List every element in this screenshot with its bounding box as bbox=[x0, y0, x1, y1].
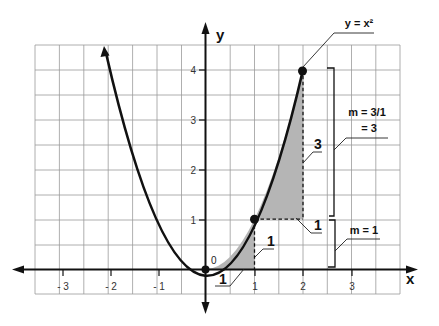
x-tick-label: 3 bbox=[349, 281, 355, 292]
y-tick-label: 2 bbox=[190, 165, 196, 176]
grid bbox=[35, 45, 400, 294]
function-label: y = x² bbox=[345, 17, 374, 29]
run-2-label: 1 bbox=[314, 217, 322, 233]
y-axis-top-arrow-icon bbox=[202, 22, 210, 34]
x-tick-label: 2 bbox=[300, 281, 306, 292]
rise-1-leader bbox=[255, 249, 274, 257]
y-axis-bottom-arrow-icon bbox=[202, 302, 210, 314]
x-tick-label: - 2 bbox=[105, 281, 117, 292]
slope-1-bracket bbox=[328, 220, 335, 267]
rise-2-label: 3 bbox=[314, 136, 322, 152]
y-axis-label: y bbox=[216, 26, 225, 43]
rise-2-leader bbox=[303, 152, 322, 163]
x-tick-label: - 3 bbox=[57, 281, 69, 292]
slope-3-bracket bbox=[327, 68, 334, 216]
x-axis-label: x bbox=[406, 270, 415, 287]
rise-1-label: 1 bbox=[267, 233, 275, 249]
slope-1-label: m = 1 bbox=[350, 224, 378, 236]
point-2-4 bbox=[298, 67, 307, 76]
slope-3-leader bbox=[334, 138, 388, 150]
x-tick-label: - 1 bbox=[153, 281, 165, 292]
x-tick-label: 1 bbox=[252, 281, 258, 292]
run-1-label: 1 bbox=[219, 271, 227, 287]
x-axis-left-arrow-icon bbox=[12, 266, 24, 274]
function-label-leader bbox=[303, 33, 374, 67]
x-axis bbox=[12, 266, 418, 274]
parabola-chart: - 3 - 2 - 1 1 2 3 1 2 3 4 0 y x y = x² m… bbox=[0, 0, 439, 326]
y-tick-label: 4 bbox=[190, 65, 196, 76]
slope-3-label-line2: = 3 bbox=[361, 122, 377, 134]
y-tick-label: 3 bbox=[190, 115, 196, 126]
slope-3-label-line1: m = 3/1 bbox=[348, 106, 386, 118]
point-origin bbox=[202, 266, 210, 274]
point-1-1 bbox=[250, 215, 259, 224]
origin-label: 0 bbox=[211, 255, 217, 266]
y-tick-label: 1 bbox=[190, 215, 196, 226]
